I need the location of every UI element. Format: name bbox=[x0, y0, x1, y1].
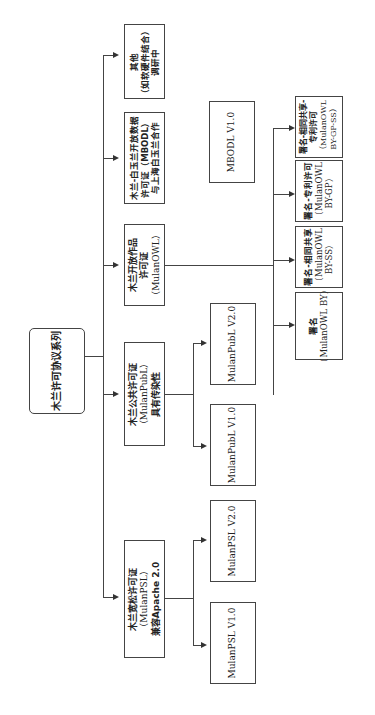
node-other: 其他 （如软硬件结合） 调研中 bbox=[124, 24, 165, 99]
leaf-mulanpsl-v2: MulanPSL V2.0 bbox=[210, 500, 256, 582]
leaf-mulanpubl-v2: MulanPubL V2.0 bbox=[210, 303, 256, 385]
connector-trunk bbox=[103, 55, 104, 598]
arrow-icon bbox=[113, 594, 119, 600]
node-subtitle: 许可证（MBODL） bbox=[139, 118, 150, 198]
leaf-mulanowl-by-ss: 署名-相同共享 （MulanOWL BY-SS） bbox=[295, 226, 343, 288]
leaf-mulanowl-by-gp-ss: 署名-相同共享- 专利许可 （MulanOWL BY-GP-SS） bbox=[295, 96, 343, 158]
arrow-icon bbox=[201, 642, 207, 648]
node-subtitle: （MulanPubL） bbox=[139, 359, 150, 430]
leaf-mulanpsl-v1: MulanPSL V1.0 bbox=[210, 602, 256, 684]
leaf-mulanowl-by-gp: 署名-专利许可 （MulanOWL BY-GP） bbox=[295, 160, 343, 222]
node-title: 其他 bbox=[129, 53, 140, 71]
arrow-icon bbox=[113, 155, 119, 161]
node-title: 木兰宽松许可证 bbox=[128, 568, 139, 631]
root-label: 木兰许可协议系列 bbox=[51, 328, 64, 414]
node-subtitle: 许可证 bbox=[139, 252, 150, 279]
connector-line bbox=[164, 394, 194, 395]
node-subtitle: （如软硬件结合） bbox=[139, 26, 150, 98]
connector-line bbox=[164, 265, 274, 266]
node-subtitle: （MulanPSL） bbox=[139, 566, 150, 631]
arrow-icon bbox=[201, 340, 207, 346]
node-note: 调研中 bbox=[150, 48, 161, 75]
root-node: 木兰许可协议系列 bbox=[29, 328, 85, 414]
connector-line bbox=[164, 598, 194, 599]
connector-line bbox=[273, 128, 274, 395]
node-title: 木兰公共许可证 bbox=[128, 363, 139, 426]
connector-line bbox=[193, 540, 194, 646]
node-mbodl: 木兰-白玉兰开放数据 许可证（MBODL） 与上海白玉兰合作 bbox=[124, 112, 165, 204]
node-mulan-publ: 木兰公共许可证 （MulanPubL） 具有传染性 bbox=[124, 342, 165, 446]
node-note: 具有传染性 bbox=[150, 372, 161, 417]
arrow-icon bbox=[113, 52, 119, 58]
node-note: （MulanOWL） bbox=[150, 230, 161, 300]
arrow-icon bbox=[113, 262, 119, 268]
node-title: 木兰-白玉兰开放数据 bbox=[129, 116, 140, 201]
node-note: 兼容Apache 2.0 bbox=[150, 562, 161, 636]
node-title: 木兰开放作品 bbox=[128, 238, 139, 292]
node-mulan-owl: 木兰开放作品 许可证 （MulanOWL） bbox=[124, 224, 165, 306]
leaf-mulanpubl-v1: MulanPubL V1.0 bbox=[210, 404, 256, 486]
node-note: 与上海白玉兰合作 bbox=[150, 122, 161, 194]
connector-line bbox=[84, 356, 104, 357]
node-mulan-psl: 木兰宽松许可证 （MulanPSL） 兼容Apache 2.0 bbox=[124, 540, 165, 658]
leaf-mulanowl-by: 署名 （MulanOWL BY） bbox=[295, 292, 343, 360]
arrow-icon bbox=[201, 537, 207, 543]
arrow-icon bbox=[201, 443, 207, 449]
arrow-icon bbox=[113, 391, 119, 397]
connector-line bbox=[193, 343, 194, 447]
leaf-mbodl-v1: MBODL V1.0 bbox=[209, 101, 255, 183]
